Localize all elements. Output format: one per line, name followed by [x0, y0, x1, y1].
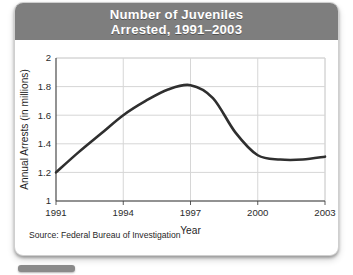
- x-axis-label: Year: [180, 225, 201, 236]
- y-axis-ticks: 11.21.41.61.82: [38, 52, 52, 206]
- svg-text:1: 1: [46, 195, 51, 206]
- grid-lines: [56, 58, 325, 201]
- svg-text:1.6: 1.6: [38, 110, 51, 121]
- chart-title-line-2: Arrested, 1991–2003: [111, 22, 242, 37]
- svg-text:2: 2: [46, 52, 51, 63]
- svg-text:1.2: 1.2: [38, 167, 51, 178]
- chart-title-banner: Number of Juveniles Arrested, 1991–2003: [15, 3, 338, 40]
- source-note: Source: Federal Bureau of Investigation: [29, 230, 180, 240]
- chart-card: Number of Juveniles Arrested, 1991–2003 …: [14, 2, 339, 256]
- chart-plot-area: 11.21.41.61.82 19911994199720002003 Annu…: [15, 40, 339, 256]
- line-chart-svg: 11.21.41.61.82 19911994199720002003 Annu…: [15, 40, 339, 256]
- svg-text:1991: 1991: [45, 207, 66, 218]
- bottom-tab-stub[interactable]: [18, 265, 75, 272]
- svg-text:1997: 1997: [180, 207, 201, 218]
- svg-text:2000: 2000: [247, 207, 268, 218]
- x-axis-ticks: 19911994199720002003: [45, 201, 335, 218]
- svg-text:1994: 1994: [113, 207, 135, 218]
- chart-title-line-1: Number of Juveniles: [110, 7, 244, 22]
- svg-text:1.4: 1.4: [38, 138, 52, 149]
- svg-text:1.8: 1.8: [38, 81, 51, 92]
- y-axis-label: Annual Arrests (in millions): [19, 69, 30, 190]
- svg-text:2003: 2003: [314, 207, 335, 218]
